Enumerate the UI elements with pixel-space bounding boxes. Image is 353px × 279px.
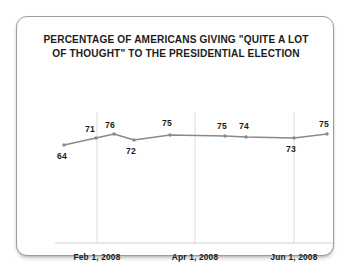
data-point-label: 64 [57,151,67,161]
x-axis-tick-label: Apr 1, 2008 [172,252,218,262]
data-point-marker [94,136,97,139]
data-point-marker [132,138,135,141]
chart-card: PERCENTAGE OF AMERICANS GIVING "QUITE A … [16,16,334,256]
x-axis-tick-label: Feb 1, 2008 [74,252,121,262]
data-point-marker [168,133,171,136]
plot-area: 647176727575747375Feb 1, 2008Apr 1, 2008… [17,17,335,257]
data-point-label: 73 [286,144,296,154]
data-point-label: 74 [239,121,249,131]
data-point-marker [325,132,328,135]
data-point-label: 76 [105,120,115,130]
data-point-label: 75 [217,121,227,131]
data-point-marker [244,135,247,138]
data-point-label: 72 [126,146,136,156]
data-point-marker [292,136,295,139]
data-point-label: 71 [85,124,95,134]
data-point-marker [112,132,115,135]
data-point-label: 75 [319,119,329,129]
x-axis-tick-label: Jun 1, 2008 [271,252,318,262]
data-point-marker [223,134,226,137]
data-point-marker [62,143,65,146]
line-chart-svg [17,17,335,257]
data-point-label: 75 [162,118,172,128]
